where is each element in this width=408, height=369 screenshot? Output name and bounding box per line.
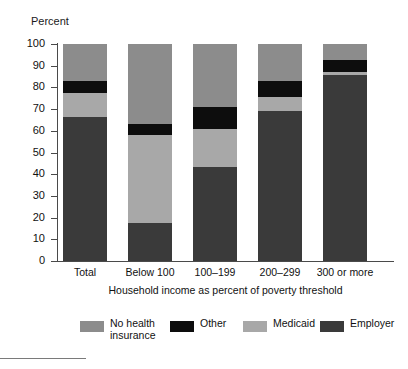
- bar-column: [63, 44, 107, 261]
- y-axis-tick-label: 30: [5, 190, 45, 201]
- x-axis-title: Household income as percent of poverty t…: [57, 284, 394, 296]
- chart-figure: Percent 0102030405060708090100 TotalBelo…: [0, 0, 408, 369]
- y-axis-tick: [51, 109, 57, 110]
- x-axis-line: [57, 261, 394, 262]
- y-axis-tick: [51, 87, 57, 88]
- bar-segment: [258, 44, 302, 81]
- x-axis-label: 300 or more: [300, 266, 390, 278]
- bar-segment: [258, 111, 302, 261]
- bar-segment: [63, 44, 107, 81]
- y-axis-tick-label: 90: [5, 60, 45, 71]
- bar-segment: [193, 107, 237, 129]
- bar-column: [128, 44, 172, 261]
- y-axis-tick: [51, 218, 57, 219]
- bar-segment: [128, 44, 172, 124]
- legend-label: Medicaid: [273, 318, 315, 330]
- legend-label: No health insurance: [110, 318, 158, 341]
- bar-segment: [323, 60, 367, 72]
- y-axis-tick-label: 100: [5, 38, 45, 49]
- bar-segment: [63, 93, 107, 117]
- y-axis-tick-label: 50: [5, 147, 45, 158]
- bar-segment: [258, 81, 302, 97]
- bar-segment: [323, 44, 367, 60]
- y-axis-tick-label: 80: [5, 81, 45, 92]
- bar-column: [193, 44, 237, 261]
- bar-segment: [128, 135, 172, 223]
- y-axis-tick-label: 40: [5, 168, 45, 179]
- bar-column: [323, 44, 367, 261]
- y-axis-tick: [51, 174, 57, 175]
- bar-segment: [63, 81, 107, 93]
- bar-column: [258, 44, 302, 261]
- y-axis-tick: [51, 66, 57, 67]
- y-axis-tick: [51, 239, 57, 240]
- y-axis-tick-label: 0: [5, 255, 45, 266]
- bar-segment: [128, 124, 172, 135]
- y-axis-tick-label: 10: [5, 233, 45, 244]
- legend-swatch: [170, 321, 194, 332]
- bar-segment: [323, 72, 367, 75]
- y-axis-tick: [51, 196, 57, 197]
- y-axis-tick: [51, 153, 57, 154]
- footnote-rule: [0, 358, 86, 359]
- legend-label: Employer: [350, 318, 394, 330]
- plot-area: 0102030405060708090100 TotalBelow 100100…: [0, 0, 408, 369]
- bar-segment: [128, 223, 172, 261]
- y-axis-tick: [51, 261, 57, 262]
- bar-segment: [193, 167, 237, 261]
- y-axis-tick-label: 60: [5, 125, 45, 136]
- bar-segment: [193, 129, 237, 167]
- y-axis-tick: [51, 131, 57, 132]
- legend-label: Other: [200, 318, 226, 330]
- y-axis-tick-label: 70: [5, 103, 45, 114]
- y-axis-line: [57, 43, 58, 262]
- legend-swatch: [80, 321, 104, 332]
- legend-swatch: [243, 321, 267, 332]
- bar-segment: [323, 75, 367, 261]
- y-axis-tick: [51, 44, 57, 45]
- bar-segment: [258, 97, 302, 111]
- chart-legend: No health insuranceOtherMedicaidEmployer: [0, 318, 408, 350]
- y-axis-tick-label: 20: [5, 212, 45, 223]
- bar-segment: [193, 44, 237, 107]
- bar-segment: [63, 117, 107, 261]
- legend-swatch: [320, 321, 344, 332]
